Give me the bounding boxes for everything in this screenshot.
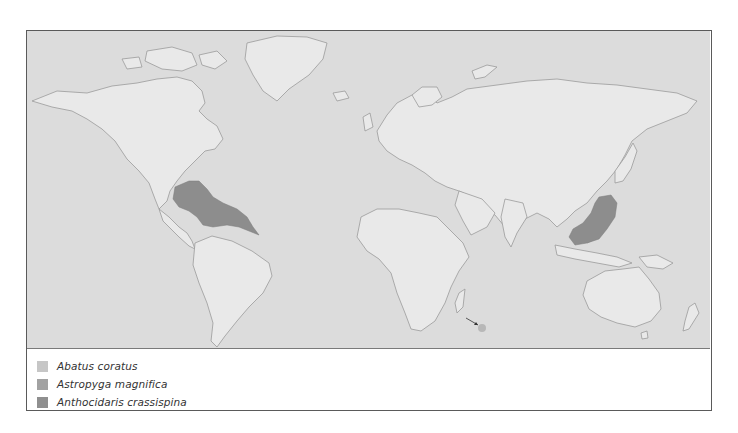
legend-label: Astropyga magnifica [57, 378, 167, 390]
south-america [193, 236, 272, 347]
legend-item-astropyga-magnifica: Astropyga magnifica [37, 375, 187, 393]
legend-swatch [37, 397, 48, 408]
maritime-southeast-asia [555, 245, 632, 267]
world-map-svg [27, 31, 710, 348]
africa [357, 209, 469, 331]
legend-label: Abatus coratus [57, 360, 137, 372]
map-figure-frame: Abatus coratus Astropyga magnifica Antho… [26, 30, 712, 411]
new-guinea [639, 255, 673, 269]
iceland [333, 91, 349, 101]
abatus-coratus-location [478, 324, 486, 332]
australia [583, 267, 661, 327]
madagascar [455, 289, 465, 313]
new-zealand [683, 303, 699, 331]
world-map [27, 31, 710, 349]
range-astropyga-magnifica [173, 181, 259, 235]
legend-label: Anthocidaris crassispina [57, 396, 187, 408]
central-america [159, 209, 195, 249]
arctic-islands [145, 47, 197, 71]
tasmania [641, 331, 648, 339]
british-isles [363, 113, 373, 131]
range-abatus-coratus [466, 318, 486, 332]
greenland [245, 36, 327, 101]
legend-swatch [37, 361, 48, 372]
legend-swatch [37, 379, 48, 390]
legend: Abatus coratus Astropyga magnifica Antho… [37, 357, 187, 411]
india [501, 199, 527, 247]
legend-item-abatus-coratus: Abatus coratus [37, 357, 187, 375]
novaya-zemlya [472, 65, 497, 79]
landmasses [32, 36, 699, 347]
legend-item-anthocidaris-crassispina: Anthocidaris crassispina [37, 393, 187, 411]
